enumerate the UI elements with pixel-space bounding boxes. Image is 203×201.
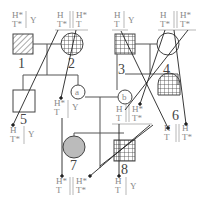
svg-text:Y: Y [128, 15, 135, 25]
svg-text:T: T [56, 185, 62, 195]
genotype-a: H* T Y [54, 98, 79, 118]
svg-text:7: 7 [70, 158, 77, 173]
genotype-5: H T* Y [10, 125, 35, 144]
male-3 [115, 34, 135, 54]
svg-text:T*: T* [12, 19, 22, 29]
genotype-8: H T Y [115, 176, 137, 195]
male-affected-1 [13, 34, 33, 54]
male-8 [114, 140, 135, 161]
svg-text:1: 1 [18, 56, 25, 71]
female-6 [158, 73, 180, 95]
svg-text:3: 3 [118, 62, 125, 77]
svg-text:6: 6 [172, 108, 179, 123]
svg-text:Y: Y [30, 15, 37, 25]
svg-text:T: T [164, 132, 170, 142]
svg-text:T*: T* [182, 132, 192, 142]
svg-text:a: a [75, 87, 79, 97]
genotype-b: H T H* T* [112, 104, 152, 124]
genotype-4: H T* H* T* [158, 10, 196, 30]
svg-text:Y: Y [72, 102, 79, 112]
svg-text:T: T [54, 107, 60, 117]
genotype-1: H* T* Y [12, 10, 37, 29]
genotype-7: H* T H* T* [56, 176, 87, 195]
svg-text:T: T [76, 19, 82, 29]
svg-text:T*: T* [57, 19, 67, 29]
female-2 [61, 33, 83, 55]
svg-text:T: T [115, 185, 121, 195]
svg-text:Y: Y [28, 129, 35, 139]
svg-text:Y: Y [130, 181, 137, 191]
pedigree-diagram: H* T* Y H T* H* T H T Y H T* H* T* 1 2 3… [0, 0, 203, 201]
svg-text:T: T [116, 113, 122, 123]
genotype-2: H T* H* T [55, 10, 88, 30]
svg-text:T*: T* [132, 113, 142, 123]
female-affected-7 [63, 136, 85, 158]
svg-text:T*: T* [10, 134, 20, 144]
svg-text:5: 5 [20, 112, 27, 127]
svg-text:T*: T* [160, 19, 170, 29]
genotype-6: H T H T* [164, 123, 192, 142]
svg-text:8: 8 [121, 162, 128, 177]
svg-text:b: b [122, 92, 127, 102]
svg-text:T*: T* [76, 185, 86, 195]
svg-text:T*: T* [180, 19, 190, 29]
genotype-3: H T Y [112, 10, 135, 30]
svg-text:T: T [114, 19, 120, 29]
